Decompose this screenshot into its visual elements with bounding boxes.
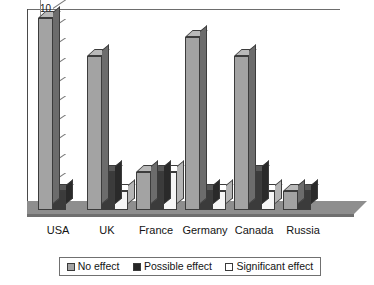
x-tick-label: Germany [182,224,227,237]
bar [234,56,249,210]
floor-right-bevel [354,201,367,214]
bar-side-face [311,179,318,204]
bar-front-face [136,172,151,210]
bar-group [136,9,185,210]
bar-side-face [66,179,73,204]
x-axis-labels: USAUKFranceGermanyCanadaRussia [27,224,367,240]
x-tick-label: USA [47,224,70,237]
legend-item[interactable]: No effect [67,261,120,272]
bar-side-face [200,25,207,204]
legend-item[interactable]: Possible effect [133,261,212,272]
x-tick-label: UK [99,224,114,237]
x-tick-label: France [139,224,173,237]
bar [136,172,151,210]
bar-front-face [283,191,298,210]
bar-side-face [151,160,158,204]
x-tick-label: Russia [286,224,320,237]
bar-side-face [53,6,60,204]
bar-front-face [38,18,53,210]
bar-side-face [262,160,269,204]
gray-swatch-icon [67,263,75,271]
black-swatch-icon [133,263,141,271]
floor-front-edge [27,214,354,217]
bar-side-face [249,45,256,204]
bar-front-face [185,37,200,210]
bar-group [234,9,283,210]
legend-item-label: Significant effect [236,261,313,272]
bar-group [38,9,87,210]
plot-area: 012345678910 [27,9,367,223]
legend-item-label: Possible effect [144,261,212,272]
bar [185,37,200,210]
white-swatch-icon [225,263,233,271]
legend-item[interactable]: Significant effect [225,261,313,272]
bar [38,18,53,210]
bar-group [87,9,136,210]
bar-side-face [128,179,135,204]
x-tick-label: Canada [235,224,274,237]
bar-group [185,9,234,210]
bar-side-face [164,160,171,204]
bar-side-face [226,179,233,204]
bar-group [283,9,332,210]
bar-front-face [234,56,249,210]
legend-item-label: No effect [78,261,120,272]
bar [87,56,102,210]
bar [283,191,298,210]
chart-legend: No effectPossible effectSignificant effe… [59,257,321,276]
bar-side-face [102,45,109,204]
bar-side-face [115,160,122,204]
bar-side-face [275,179,282,204]
bar-groups [27,9,340,210]
bar-front-face [87,56,102,210]
bar-chart: 012345678910 USAUKFranceGermanyCanadaRus… [0,0,374,285]
bar-side-face [177,160,184,204]
